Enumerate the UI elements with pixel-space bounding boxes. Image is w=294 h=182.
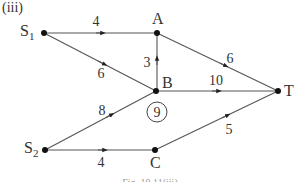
node-label: S (24, 139, 33, 156)
edge-s2-c: 4 (45, 150, 155, 170)
svg-text:S1: S1 (20, 22, 34, 42)
node-c: C (150, 147, 161, 171)
edge-s2-b: 8 (45, 91, 156, 150)
node-label: A (152, 10, 164, 27)
edges: 4 6 3 6 10 8 (44, 14, 278, 170)
edge-weight: 10 (209, 73, 223, 88)
part-label: (iii) (2, 0, 23, 16)
node-a: A (152, 10, 164, 36)
edge-s1-b: 6 (44, 33, 156, 91)
edge-weight: 8 (99, 103, 106, 118)
arrow-icon (106, 114, 112, 117)
edge-weight: 4 (93, 14, 100, 29)
arrow-icon (222, 115, 228, 118)
node-label: S (20, 22, 29, 39)
edge-weight: 5 (226, 122, 233, 137)
svg-text:S2: S2 (24, 139, 38, 159)
node-subscript: 2 (33, 147, 39, 159)
node-label: T (284, 82, 294, 99)
edge-weight: 3 (144, 55, 151, 70)
edge-weight: 6 (98, 66, 105, 81)
edge-s1-a: 4 (44, 14, 157, 33)
node-label: C (150, 154, 161, 171)
arrow-icon (98, 61, 105, 65)
edge-weight: 4 (98, 155, 105, 170)
edge-b-a: 3 (144, 33, 158, 91)
edge-c-t: 5 (155, 91, 278, 150)
network-flow-diagram: (iii) 4 6 3 6 10 (0, 0, 294, 182)
node-s2: S2 (24, 139, 48, 159)
node-subscript: 1 (29, 30, 35, 42)
node-label: B (162, 74, 173, 91)
edge-weight: 6 (227, 51, 234, 66)
circled-annotation: 9 (147, 102, 167, 122)
annotation-value: 9 (154, 105, 161, 120)
figure-caption: Fig. 10.11(iii) (122, 177, 177, 182)
node-s1: S1 (20, 22, 47, 42)
arrow-icon (220, 63, 226, 66)
node-t: T (275, 82, 294, 99)
